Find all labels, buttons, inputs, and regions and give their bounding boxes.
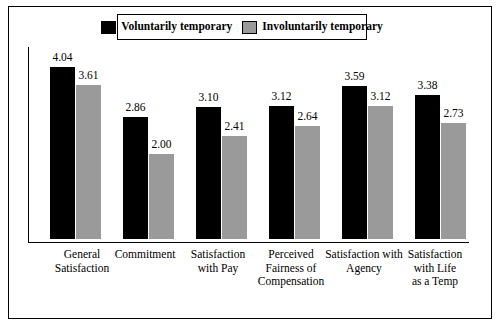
bar-value-voluntarily-3: 3.12 (271, 91, 291, 103)
bar-group-5: 3.38 2.73 (415, 95, 466, 239)
legend-label-involuntarily-temporary: Involuntarily temporary (262, 21, 382, 33)
gray-square-swatch-icon (242, 21, 257, 34)
bar-value-involuntarily-0: 3.61 (78, 70, 98, 82)
bar-involuntarily-5: 2.73 (441, 123, 466, 239)
bar-group-3: 3.12 2.64 (269, 106, 320, 239)
bar-value-involuntarily-5: 2.73 (443, 108, 463, 120)
bar-value-voluntarily-2: 3.10 (198, 92, 218, 104)
bar-value-involuntarily-1: 2.00 (151, 139, 171, 151)
bar-group-2: 3.10 2.41 (196, 107, 247, 239)
x-axis-category-labels: General Satisfaction Commitment Satisfac… (28, 248, 469, 310)
plot-area: 4.04 3.61 2.86 2.00 3.10 2.41 3.12 (28, 47, 468, 239)
legend-item-voluntarily-temporary: Voluntarily temporary (101, 21, 232, 34)
bar-value-voluntarily-4: 3.59 (344, 71, 364, 83)
bar-group-0: 4.04 3.61 (50, 67, 101, 239)
black-square-swatch-icon (101, 21, 116, 34)
bar-voluntarily-3: 3.12 (269, 106, 294, 239)
x-label-satisfaction-with-life-as-a-temp: Satisfaction with Life as a Temp (380, 248, 490, 289)
chart-legend: Voluntarily temporary Involuntarily temp… (117, 14, 367, 40)
bar-involuntarily-1: 2.00 (149, 154, 174, 239)
bar-value-voluntarily-5: 3.38 (417, 80, 437, 92)
bar-group-4: 3.59 3.12 (342, 86, 393, 239)
chart-root: Voluntarily temporary Involuntarily temp… (0, 0, 500, 329)
legend-item-involuntarily-temporary: Involuntarily temporary (242, 21, 382, 34)
bar-involuntarily-3: 2.64 (295, 126, 320, 239)
bar-voluntarily-5: 3.38 (415, 95, 440, 239)
x-label-line: Compensation (236, 275, 346, 289)
bar-value-involuntarily-3: 2.64 (297, 111, 317, 123)
bar-involuntarily-4: 3.12 (368, 106, 393, 239)
bar-value-involuntarily-2: 2.41 (224, 121, 244, 133)
x-label-line: as a Temp (380, 275, 490, 289)
bar-voluntarily-2: 3.10 (196, 107, 221, 239)
bar-value-involuntarily-4: 3.12 (370, 91, 390, 103)
bar-value-voluntarily-0: 4.04 (52, 52, 72, 64)
bar-group-1: 2.86 2.00 (123, 117, 174, 239)
x-axis-line (28, 242, 469, 243)
bar-voluntarily-4: 3.59 (342, 86, 367, 239)
bar-value-voluntarily-1: 2.86 (125, 102, 145, 114)
x-label-line: with Life (380, 262, 490, 276)
bar-involuntarily-0: 3.61 (76, 85, 101, 239)
bar-voluntarily-1: 2.86 (123, 117, 148, 239)
x-label-line: Satisfaction (28, 262, 136, 276)
bar-involuntarily-2: 2.41 (222, 136, 247, 239)
legend-label-voluntarily-temporary: Voluntarily temporary (121, 21, 232, 33)
bar-voluntarily-0: 4.04 (50, 67, 75, 239)
x-label-line: Satisfaction (380, 248, 490, 262)
